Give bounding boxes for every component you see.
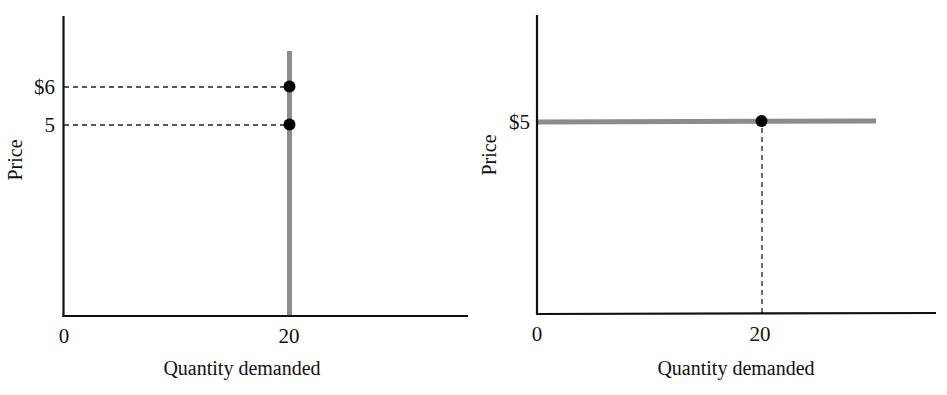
left-x-axis-label: Quantity demanded [163,357,320,380]
chart-canvas: $6 5 0 20 Price Quantity demanded $5 0 2… [0,0,947,395]
right-x-axis-label: Quantity demanded [657,357,814,380]
right-x-axis [536,313,936,314]
right-x-tick-0: 0 [532,322,543,346]
left-y-tick-6: $6 [34,75,55,99]
left-y-axis-label: Price [4,139,26,180]
left-x-tick-0: 0 [59,324,70,348]
left-point-price-5 [284,119,296,131]
right-y-axis-label: Price [478,134,500,175]
left-x-tick-20: 20 [279,324,300,348]
left-chart: $6 5 0 20 Price Quantity demanded [4,16,468,380]
right-chart: $5 0 20 Price Quantity demanded [478,15,936,380]
right-demand-curve [538,121,876,122]
right-y-tick-5: $5 [509,110,530,134]
left-y-tick-5: 5 [45,113,56,137]
right-x-tick-20: 20 [750,322,771,346]
right-point-price-5 [756,115,768,127]
left-point-price-6 [284,81,296,93]
